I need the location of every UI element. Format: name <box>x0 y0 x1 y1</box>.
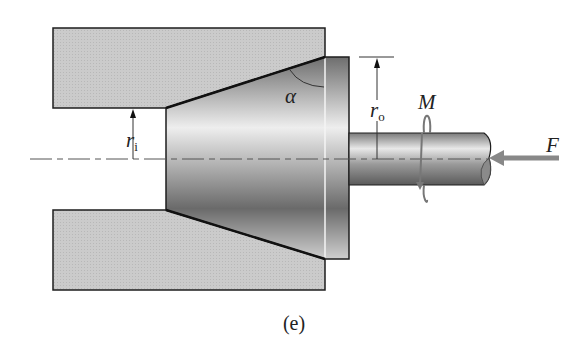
moment-label: M <box>418 92 436 113</box>
r-i-label: ri <box>126 130 138 151</box>
r-o-sub: o <box>378 109 385 124</box>
r-o-main: r <box>370 98 378 122</box>
r-o-arrowhead <box>374 58 380 68</box>
extrusion-die-diagram <box>0 0 588 352</box>
alpha-label: α <box>285 86 296 107</box>
r-i-arrowhead <box>130 109 136 118</box>
figure-caption: (e) <box>0 312 588 335</box>
force-arrowhead <box>489 150 504 166</box>
r-o-label: ro <box>370 100 385 121</box>
r-i-sub: i <box>134 139 138 154</box>
r-i-main: r <box>126 128 134 152</box>
force-label: F <box>546 135 559 156</box>
